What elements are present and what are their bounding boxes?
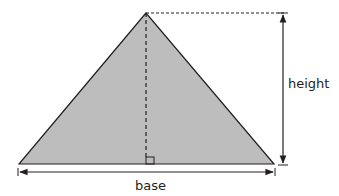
triangle-diagram: height base — [0, 0, 339, 196]
base-label: base — [135, 178, 166, 193]
height-label: height — [288, 76, 329, 91]
